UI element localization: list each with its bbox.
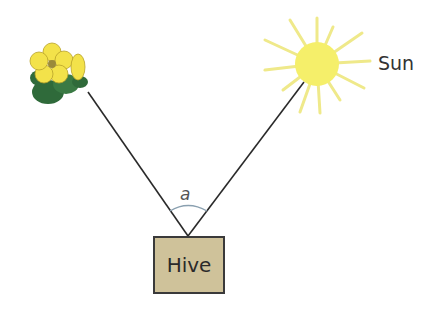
flower-icon [30,43,88,104]
hive-label: Hive [167,253,212,277]
sun-icon [265,18,370,113]
angle-label: a [180,184,190,204]
hive-to-flower-line [88,92,188,236]
angle-arc [170,206,207,212]
hive-to-sun-line [188,82,304,236]
sun-label: Sun [378,52,414,74]
hive-box: Hive [153,236,225,294]
